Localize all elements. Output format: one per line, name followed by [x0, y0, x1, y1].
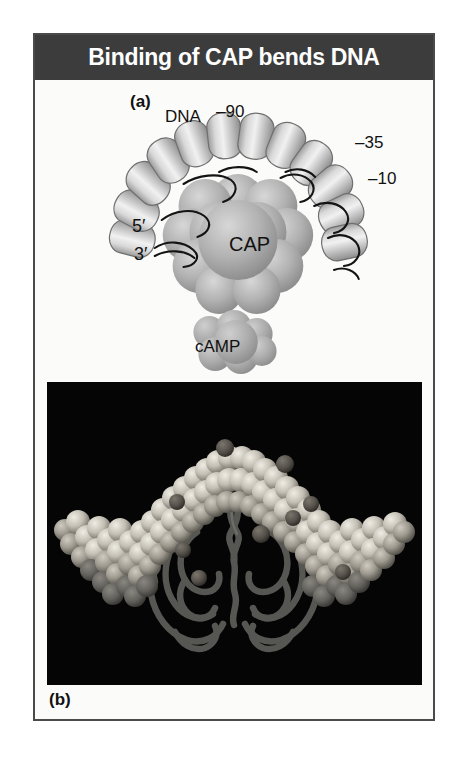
- cap-dna-schematic: [35, 80, 433, 380]
- label-camp: cAMP: [195, 337, 240, 357]
- label-position-10: –10: [368, 169, 396, 189]
- panel-b-label: (b): [49, 690, 71, 710]
- label-cap: CAP: [229, 233, 270, 256]
- panel-b: (b): [35, 380, 433, 719]
- cap-dna-crystal-photo: [47, 382, 422, 685]
- label-position-90: –90: [216, 102, 244, 122]
- figure-title: Binding of CAP bends DNA: [88, 44, 379, 71]
- figure-page: Binding of CAP bends DNA: [0, 0, 469, 757]
- figure-frame: Binding of CAP bends DNA: [33, 33, 435, 721]
- label-three-prime: 3′: [134, 244, 147, 265]
- label-dna: DNA: [165, 107, 201, 127]
- panel-a: (a) DNA –90 –35 –10 5′ 3′ CAP cAMP: [35, 80, 433, 380]
- cap-dna-structure-render: [47, 382, 422, 685]
- panel-a-label: (a): [130, 92, 151, 112]
- label-five-prime: 5′: [132, 216, 145, 237]
- label-position-35: –35: [355, 133, 383, 153]
- figure-title-bar: Binding of CAP bends DNA: [35, 35, 433, 80]
